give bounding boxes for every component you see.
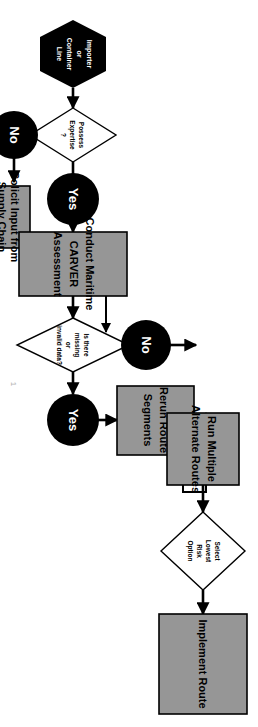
- node-carver-line-1: CARVER: [68, 241, 80, 287]
- node-process-carver-assessment[interactable]: Conduct Maritime CARVER Assessment: [19, 218, 127, 311]
- node-start-line-1: or: [76, 51, 83, 58]
- node-runmultiple-line-1: Alternate Routes: [190, 405, 202, 493]
- node-d3-line-1: Lowest: [205, 540, 212, 563]
- node-d3-line-3: Option: [186, 541, 194, 562]
- node-start-line-0: Importer: [85, 40, 93, 69]
- node-process-implement-route[interactable]: Implement Route: [159, 614, 247, 714]
- node-decision-possess-expertise[interactable]: Possess Expertise ?: [30, 108, 116, 162]
- node-decision-select-lowest-risk[interactable]: Select Lowest Risk Option: [161, 512, 245, 590]
- node-decision-missing-invalid-data[interactable]: Is there missing or invalid data?: [17, 318, 129, 372]
- node-d2-line-0: Is there: [83, 333, 90, 357]
- node-d2-no-label: No: [139, 336, 154, 353]
- node-d1-line-2: ?: [60, 133, 67, 137]
- node-start[interactable]: Importer or Container Line: [40, 20, 106, 88]
- node-carver-line-0: Conduct Maritime: [84, 218, 96, 311]
- node-d2-line-3: invalid data?: [56, 325, 63, 365]
- node-d3-line-2: Risk: [196, 544, 203, 558]
- flowchart-svg: Importer or Container Line Possess Exper…: [0, 0, 258, 727]
- node-d1-yes-label: Yes: [66, 188, 81, 210]
- node-process-run-multiple-routes[interactable]: Run Multiple Alternate Routes: [167, 405, 239, 493]
- node-start-line-2: Container: [66, 38, 73, 71]
- flowchart-rotated-group: Importer or Container Line Possess Exper…: [0, 0, 258, 727]
- node-solicit-line-1: Supply Chain: [0, 182, 8, 253]
- node-connector-yes-data[interactable]: Yes: [47, 394, 99, 446]
- node-start-line-3: Line: [56, 47, 63, 61]
- node-rerun-line-1: Segments: [142, 394, 154, 447]
- page-artifact-text: 1: [10, 382, 17, 386]
- node-d2-line-1: missing: [73, 333, 81, 358]
- node-d2-line-2: or: [65, 342, 72, 349]
- node-connector-no-expertise[interactable]: No: [0, 111, 38, 159]
- node-d3-line-0: Select: [214, 541, 221, 561]
- node-d1-line-1: Expertise: [68, 120, 76, 150]
- node-implement-line-0: Implement Route: [197, 619, 209, 708]
- node-runmultiple-line-0: Run Multiple: [206, 416, 218, 482]
- node-connector-no-data[interactable]: No: [121, 320, 171, 370]
- node-d1-line-0: Possess: [78, 122, 85, 149]
- node-d1-no-label: No: [7, 126, 22, 143]
- node-d2-yes-label: Yes: [66, 409, 81, 431]
- node-carver-line-2: Assessment: [52, 232, 64, 297]
- flowchart-canvas: Importer or Container Line Possess Exper…: [0, 0, 258, 727]
